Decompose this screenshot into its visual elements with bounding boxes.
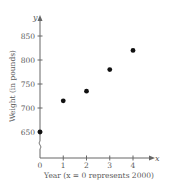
x-tick-label: 1 [61, 161, 66, 170]
data-point [107, 67, 112, 72]
y-tick-label: 700 [21, 104, 36, 113]
data-point [131, 48, 136, 53]
y-tick-label: 750 [21, 80, 36, 89]
y-tick-label: 850 [21, 32, 36, 41]
data-points [38, 48, 136, 134]
scatter-chart: 65070075080085001234 Year (x = 0 represe… [0, 0, 169, 192]
x-tick-label: 2 [84, 161, 89, 170]
axis-break-icon [39, 141, 41, 149]
data-point [84, 89, 89, 94]
y-axis-arrow-icon [38, 15, 43, 21]
y-axis-variable: y [32, 13, 38, 22]
x-tick-label: 3 [107, 161, 112, 170]
x-axis-title: Year (x = 0 represents 2000) [43, 171, 154, 180]
data-point [38, 130, 43, 135]
axes [38, 15, 156, 161]
x-tick-label: 4 [131, 161, 136, 170]
y-tick-label: 650 [21, 128, 36, 137]
x-axis-variable: x [155, 154, 160, 163]
y-axis-title: Weight (in pounds) [8, 50, 17, 122]
y-tick-label: 800 [21, 56, 36, 65]
axis-ticks: 65070075080085001234 [21, 32, 136, 170]
x-tick-label: 0 [38, 161, 43, 170]
data-point [61, 98, 66, 103]
